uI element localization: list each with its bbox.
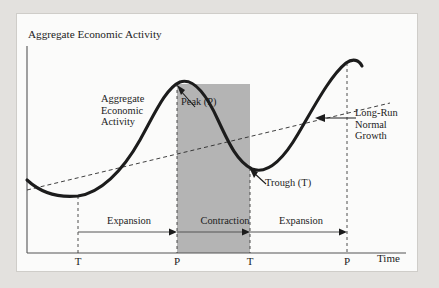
- x-tick-label-peak-2: P: [337, 255, 357, 267]
- x-axis-title: Time: [377, 252, 400, 264]
- chart-title: Aggregate Economic Activity: [28, 28, 162, 41]
- business-cycle-chart: [0, 0, 439, 288]
- long-run-growth-label: Long-Run Normal Growth: [355, 107, 398, 142]
- peak-annotation-label: Peak (P): [181, 96, 217, 108]
- aggregate-activity-curve-label: Aggregate Economic Activity: [101, 93, 144, 128]
- trough-annotation-label: Trough (T): [265, 177, 311, 189]
- expansion-1-arrowhead: [169, 229, 177, 236]
- phase-label-contraction: Contraction: [180, 215, 270, 227]
- expansion-2-arrowhead: [339, 229, 347, 236]
- x-tick-label-trough-1: T: [68, 255, 88, 267]
- phase-label-expansion-1: Expansion: [86, 215, 172, 227]
- x-tick-label-peak-1: P: [167, 255, 187, 267]
- phase-label-expansion-2: Expansion: [258, 215, 344, 227]
- business-cycle-figure: Aggregate Economic Activity Aggregate Ec…: [0, 0, 439, 288]
- x-tick-label-trough-2: T: [240, 255, 260, 267]
